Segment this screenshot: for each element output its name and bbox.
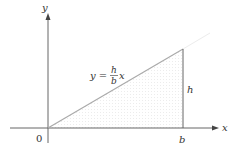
origin-label: 0 [36, 133, 42, 144]
x-axis-label: x [222, 122, 228, 133]
y-axis-arrow-icon [46, 13, 51, 20]
triangle-diagram: y x 0 b h y = h b x [0, 0, 236, 153]
line-equation: y = h b x [89, 65, 125, 86]
height-label: h [187, 84, 193, 95]
svg-text:y =: y = [89, 70, 107, 81]
base-label: b [179, 134, 185, 145]
y-axis-label: y [41, 2, 48, 13]
x-axis-arrow-icon [212, 126, 219, 131]
svg-text:b: b [111, 76, 117, 86]
svg-text:x: x [119, 70, 125, 81]
svg-text:h: h [111, 65, 117, 75]
line-extension [183, 33, 210, 49]
